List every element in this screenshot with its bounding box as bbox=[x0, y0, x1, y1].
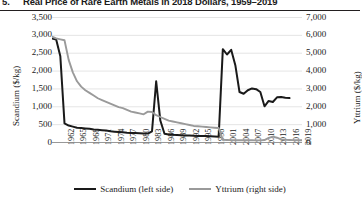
y-axis-right-tick-label: 7,000 bbox=[306, 13, 326, 22]
y-axis-left-tick-label: 2,500 bbox=[32, 48, 52, 57]
legend-item: Yttrium (right side) bbox=[189, 184, 286, 194]
legend-swatch-icon bbox=[189, 188, 211, 191]
legend-item: Scandium (left side) bbox=[74, 184, 173, 194]
y-axis-left-tick-label: 3,500 bbox=[32, 13, 52, 22]
legend-swatch-icon bbox=[74, 188, 96, 191]
page-title: Real Price of Rare Earth Metals in 2018 … bbox=[23, 0, 277, 7]
y-axis-right-tick-label: 2,000 bbox=[306, 102, 326, 111]
x-axis-tick-label: 2019 bbox=[305, 129, 313, 145]
legend-label: Yttrium (right side) bbox=[215, 184, 286, 194]
y-axis-right-tick-label: 1,000 bbox=[306, 120, 326, 129]
y-axis-left-tick-label: 2,000 bbox=[32, 66, 52, 75]
legend-label: Scandium (left side) bbox=[100, 184, 173, 194]
plot-area bbox=[52, 17, 302, 142]
figure-number: 5. bbox=[2, 0, 10, 7]
y-axis-right-tick-label: 6,000 bbox=[306, 30, 326, 39]
title-divider bbox=[0, 10, 360, 11]
y-axis-left-title: Scandium ($/kg) bbox=[11, 66, 21, 126]
y-axis-left-tick-label: 1,000 bbox=[32, 102, 52, 111]
y-axis-right-tick-label: 3,000 bbox=[306, 84, 326, 93]
y-axis-right-title: Yttrium ($/kg) bbox=[352, 71, 362, 124]
y-axis-right-tick-label: 5,000 bbox=[306, 48, 326, 57]
y-axis-left-tick-label: 1,500 bbox=[32, 84, 52, 93]
y-axis-right-tick-label: 4,000 bbox=[306, 66, 326, 75]
figure-title-bar: 5. Real Price of Rare Earth Metals in 20… bbox=[0, 0, 360, 10]
chart-svg bbox=[52, 17, 302, 143]
chart-legend: Scandium (left side)Yttrium (right side) bbox=[0, 184, 360, 194]
y-axis-left-tick-label: 500 bbox=[39, 120, 53, 129]
y-axis-left-tick-label: 3,000 bbox=[32, 30, 52, 39]
